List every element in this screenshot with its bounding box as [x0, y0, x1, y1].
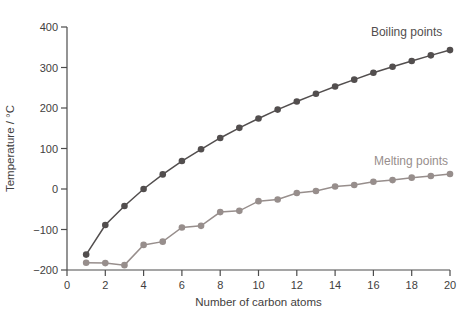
- data-point-boiling-points: [83, 251, 90, 258]
- data-point-boiling-points: [159, 171, 166, 178]
- x-tick-label: 4: [141, 279, 147, 291]
- data-point-melting-points: [332, 183, 339, 190]
- data-point-boiling-points: [236, 125, 243, 132]
- x-tick-label: 2: [102, 279, 108, 291]
- data-point-melting-points: [83, 259, 90, 266]
- y-tick-label: 100: [40, 143, 58, 155]
- data-point-melting-points: [428, 173, 435, 180]
- x-tick-label: 10: [252, 279, 264, 291]
- data-point-boiling-points: [255, 115, 262, 122]
- data-point-melting-points: [274, 196, 281, 203]
- y-axis-title: Temperature / °C: [4, 105, 16, 192]
- data-point-melting-points: [198, 223, 205, 230]
- data-point-melting-points: [370, 178, 377, 185]
- data-point-melting-points: [313, 188, 320, 195]
- data-point-boiling-points: [408, 58, 415, 65]
- data-point-boiling-points: [447, 47, 454, 54]
- data-point-boiling-points: [389, 63, 396, 70]
- data-point-boiling-points: [217, 135, 224, 142]
- data-point-melting-points: [408, 174, 415, 181]
- x-tick-label: 0: [64, 279, 70, 291]
- x-tick-label: 8: [217, 279, 223, 291]
- chart-svg: 4003002001000−100−20002468101214161820Bo…: [0, 0, 469, 325]
- series-label-melting-points: Melting points: [374, 154, 448, 168]
- data-point-boiling-points: [313, 91, 320, 98]
- y-tick-label: 300: [40, 62, 58, 74]
- x-tick-label: 12: [291, 279, 303, 291]
- data-point-boiling-points: [179, 158, 186, 165]
- data-point-boiling-points: [140, 186, 147, 193]
- data-point-melting-points: [217, 209, 224, 216]
- data-point-boiling-points: [121, 203, 128, 210]
- x-tick-label: 6: [179, 279, 185, 291]
- data-point-boiling-points: [274, 106, 281, 113]
- data-point-melting-points: [121, 262, 128, 269]
- data-point-boiling-points: [294, 98, 301, 105]
- alkane-temperature-figure: 4003002001000−100−20002468101214161820Bo…: [0, 0, 469, 325]
- series-line-boiling-points: [86, 50, 450, 255]
- x-axis-title: Number of carbon atoms: [195, 296, 322, 308]
- y-tick-label: 0: [52, 183, 58, 195]
- y-tick-label: −200: [33, 264, 58, 276]
- data-point-melting-points: [102, 260, 109, 267]
- data-point-boiling-points: [428, 52, 435, 59]
- y-tick-label: 200: [40, 102, 58, 114]
- data-point-melting-points: [140, 242, 147, 249]
- data-point-melting-points: [159, 238, 166, 245]
- series-label-boiling-points: Boiling points: [371, 25, 442, 39]
- x-tick-label: 18: [406, 279, 418, 291]
- data-point-melting-points: [447, 171, 454, 178]
- data-point-boiling-points: [351, 76, 358, 83]
- data-point-melting-points: [236, 208, 243, 215]
- data-point-melting-points: [294, 190, 301, 197]
- data-point-melting-points: [351, 182, 358, 189]
- x-tick-label: 20: [444, 279, 456, 291]
- data-point-melting-points: [389, 177, 396, 184]
- data-point-melting-points: [255, 198, 262, 205]
- data-point-boiling-points: [198, 146, 205, 153]
- data-point-boiling-points: [102, 222, 109, 229]
- data-point-boiling-points: [370, 69, 377, 76]
- data-point-melting-points: [179, 224, 186, 231]
- y-tick-label: −100: [33, 224, 58, 236]
- x-tick-label: 14: [329, 279, 341, 291]
- data-point-boiling-points: [332, 83, 339, 90]
- x-tick-label: 16: [367, 279, 379, 291]
- y-tick-label: 400: [40, 21, 58, 33]
